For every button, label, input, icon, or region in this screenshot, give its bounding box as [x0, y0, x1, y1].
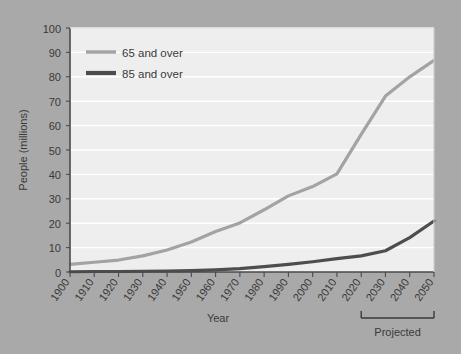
y-tick-label: 70: [49, 96, 61, 108]
y-tick-label: 10: [49, 242, 61, 254]
population-line-chart: 0102030405060708090100 19001910192019301…: [0, 0, 461, 354]
y-tick-label: 20: [49, 218, 61, 230]
y-tick-label: 30: [49, 193, 61, 205]
y-tick-label: 100: [43, 23, 61, 35]
y-tick-label: 80: [49, 71, 61, 83]
y-tick-label: 0: [55, 267, 61, 279]
legend-label: 65 and over: [122, 47, 183, 59]
y-tick-label: 90: [49, 47, 61, 59]
projected-label: Projected: [374, 326, 420, 338]
x-axis-title: Year: [207, 312, 230, 324]
y-tick-label: 50: [49, 145, 61, 157]
y-tick-label: 40: [49, 169, 61, 181]
legend-label: 85 and over: [122, 68, 183, 80]
y-tick-label: 60: [49, 120, 61, 132]
y-axis-title: People (millions): [17, 109, 29, 190]
